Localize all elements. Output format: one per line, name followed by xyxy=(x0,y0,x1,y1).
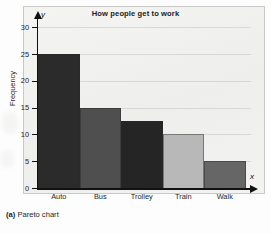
y-axis-tick-label: 0 xyxy=(7,184,29,193)
bar-outline xyxy=(38,54,80,188)
y-axis-tick-label: 30 xyxy=(7,23,29,32)
y-axis-tick xyxy=(32,27,38,28)
bar xyxy=(204,161,246,188)
y-axis-tick xyxy=(32,134,38,135)
y-axis-tick xyxy=(32,188,38,189)
x-axis-category-label: Train xyxy=(163,192,205,201)
y-axis-tick-label: 5 xyxy=(7,157,29,166)
bar-outline xyxy=(80,108,122,189)
y-axis-tick xyxy=(32,108,38,109)
x-axis-line xyxy=(37,188,251,190)
figure-pareto-chart: How people get to work Frequency y x 051… xyxy=(0,0,271,234)
bar xyxy=(163,134,205,188)
bar xyxy=(121,121,163,188)
bar xyxy=(38,54,80,188)
bar-outline xyxy=(204,161,246,188)
y-axis-title: Frequency xyxy=(8,49,17,129)
y-axis-tick xyxy=(32,54,38,55)
bar xyxy=(80,108,122,189)
bar-series xyxy=(38,0,251,188)
y-axis-tick xyxy=(32,81,38,82)
y-axis-variable-label: y xyxy=(41,10,45,19)
caption-label: (a) xyxy=(6,210,15,219)
x-axis-arrow-icon xyxy=(250,185,258,193)
y-axis-tick xyxy=(32,161,38,162)
x-axis-category-label: Walk xyxy=(204,192,246,201)
bar-outline xyxy=(163,134,205,188)
figure-caption: (a) Pareto chart xyxy=(6,210,59,219)
x-axis-category-label: Trolley xyxy=(121,192,163,201)
x-axis-variable-label: x xyxy=(250,172,254,181)
x-axis-category-label: Auto xyxy=(38,192,80,201)
y-axis-line xyxy=(37,18,38,188)
x-axis-category-label: Bus xyxy=(80,192,122,201)
y-axis-tick-label: 10 xyxy=(7,130,29,139)
bar-outline xyxy=(121,121,163,188)
caption-text: Pareto chart xyxy=(15,210,58,219)
